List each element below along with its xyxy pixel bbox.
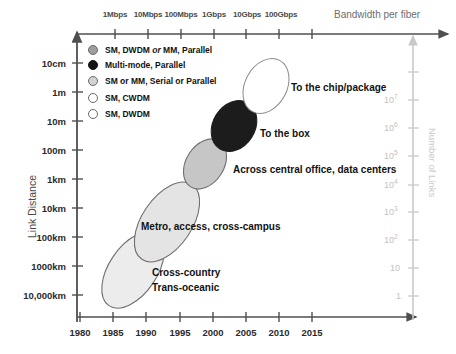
right-tick-10e3: 103 bbox=[384, 207, 398, 217]
left-tick-10000km: 10,000km bbox=[0, 290, 66, 301]
left-tick-100m: 100m bbox=[8, 145, 66, 156]
top-tick-1mbps: 1Mbps bbox=[103, 10, 127, 19]
bottom-year-axis bbox=[77, 312, 416, 322]
right-tick-1: 1 bbox=[396, 291, 401, 301]
top-bandwidth-axis bbox=[77, 29, 448, 39]
left-link-distance-axis bbox=[72, 32, 83, 322]
annotation-to-the-box: To the box bbox=[260, 126, 310, 141]
chart-canvas bbox=[0, 0, 456, 354]
annotation-metro-access: Metro, access, cross-campus bbox=[141, 219, 281, 234]
bottom-tick-1990: 1990 bbox=[135, 327, 156, 338]
legend-label: Multi-mode, Parallel bbox=[105, 60, 185, 70]
legend-swatch-icon bbox=[88, 93, 98, 103]
legend-label: SM, DWDM bbox=[105, 109, 150, 119]
annotation-trans-oceanic: Trans-oceanic bbox=[152, 280, 219, 295]
left-tick-1000km: 1000km bbox=[4, 261, 66, 272]
left-tick-10cm: 10cm bbox=[8, 58, 66, 69]
right-tick-10e5: 105 bbox=[384, 151, 398, 161]
right-tick-10e2: 102 bbox=[384, 235, 398, 245]
legend-item-sm-cwdm: SM, CWDM bbox=[88, 91, 150, 104]
top-tick-10mbps: 10Mbps bbox=[134, 10, 163, 19]
bottom-tick-1985: 1985 bbox=[102, 327, 123, 338]
left-tick-1m: 1m bbox=[8, 87, 66, 98]
bottom-tick-2010: 2010 bbox=[268, 327, 289, 338]
top-axis-title: Bandwidth per fiber bbox=[334, 9, 420, 20]
right-tick-10e7: 107 bbox=[384, 95, 398, 105]
legend-item-sm-dwdm: SM, DWDM bbox=[88, 107, 150, 120]
legend-swatch-icon bbox=[88, 109, 98, 119]
legend-swatch-icon bbox=[88, 60, 98, 70]
bottom-tick-2000: 2000 bbox=[202, 327, 223, 338]
bottom-tick-2005: 2005 bbox=[235, 327, 256, 338]
legend-label: SM, CWDM bbox=[105, 93, 150, 103]
legend-label: SM, DWDM or MM, Parallel bbox=[105, 45, 212, 55]
right-axis-title: Number of Links bbox=[427, 128, 438, 197]
legend-swatch-icon bbox=[88, 45, 98, 55]
annotation-cross-country: Cross-country bbox=[152, 265, 220, 280]
left-tick-10m: 10m bbox=[8, 116, 66, 127]
bottom-tick-1980: 1980 bbox=[69, 327, 90, 338]
top-tick-100gbps: 100Gbps bbox=[265, 10, 297, 19]
right-tick-10e4: 104 bbox=[384, 180, 398, 190]
legend-item-multi-mode-parallel: Multi-mode, Parallel bbox=[88, 58, 185, 71]
bandwidth-link-distance-chart: 1Mbps 10Mbps 100Mbps 1Gbps 10Gbps 100Gbp… bbox=[0, 0, 456, 354]
bottom-tick-2015: 2015 bbox=[301, 327, 322, 338]
legend-swatch-icon bbox=[88, 76, 98, 86]
left-axis-title: Link Distance bbox=[26, 175, 38, 238]
right-tick-10e6: 106 bbox=[384, 123, 398, 133]
annotation-across-central-office: Across central office, data centers bbox=[233, 162, 396, 177]
annotation-to-the-chip-package: To the chip/package bbox=[291, 80, 386, 95]
legend-item-sm-dwdm-or-mm-parallel: SM, DWDM or MM, Parallel bbox=[88, 43, 212, 56]
top-tick-100mbps: 100Mbps bbox=[165, 10, 198, 19]
legend-label: SM or MM, Serial or Parallel bbox=[105, 76, 216, 86]
top-tick-10gbps: 10Gbps bbox=[233, 10, 261, 19]
top-tick-1gbps: 1Gbps bbox=[202, 10, 226, 19]
right-tick-10: 10 bbox=[390, 263, 400, 273]
bottom-tick-1995: 1995 bbox=[169, 327, 190, 338]
right-number-of-links-axis bbox=[408, 36, 419, 320]
legend-item-sm-or-mm-serial-or-parallel: SM or MM, Serial or Parallel bbox=[88, 74, 216, 87]
